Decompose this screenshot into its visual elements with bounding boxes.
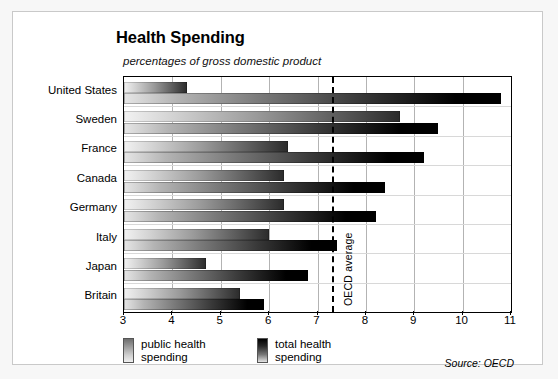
bar-public xyxy=(124,141,288,152)
legend-swatch-total-icon xyxy=(257,338,268,363)
chart-card: Health Spending percentages of gross dom… xyxy=(12,11,543,365)
bar-total xyxy=(124,211,376,222)
axis-tick-label: 7 xyxy=(313,314,319,326)
bar-total xyxy=(124,93,501,104)
legend-swatch-public-icon xyxy=(123,338,134,363)
plot-area: OECD average xyxy=(123,76,512,313)
chart-page: Health Spending percentages of gross dom… xyxy=(0,0,558,379)
row-separator xyxy=(124,283,511,284)
bar-public xyxy=(124,229,269,240)
chart-title: Health Spending xyxy=(116,28,245,47)
bar-public xyxy=(124,111,400,122)
axis-tick-label: 8 xyxy=(362,314,368,326)
bar-public xyxy=(124,170,284,181)
category-label: France xyxy=(81,142,117,154)
axis-tick-label: 3 xyxy=(120,314,126,326)
oecd-average-line xyxy=(332,77,334,312)
bar-total xyxy=(124,182,385,193)
axis-tick-label: 5 xyxy=(217,314,223,326)
bar-public xyxy=(124,288,240,299)
category-label: Germany xyxy=(70,201,117,213)
row-separator xyxy=(124,253,511,254)
row-separator xyxy=(124,165,511,166)
row-separator xyxy=(124,106,511,107)
axis-tick-label: 11 xyxy=(504,314,516,326)
category-label: Britain xyxy=(84,289,117,301)
oecd-average-label: OECD average xyxy=(342,232,354,306)
row-separator xyxy=(124,136,511,137)
axis-tick-label: 9 xyxy=(410,314,416,326)
legend-label-line2: spending xyxy=(141,351,206,364)
bar-public xyxy=(124,82,187,93)
plot-inner: OECD average xyxy=(124,77,511,312)
row-separator xyxy=(124,195,511,196)
bar-public xyxy=(124,199,284,210)
bar-total xyxy=(124,123,438,134)
category-label: Japan xyxy=(86,260,117,272)
chart-subtitle: percentages of gross domestic product xyxy=(123,55,321,67)
legend-label: public healthspending xyxy=(141,338,206,364)
category-label: Italy xyxy=(96,231,117,243)
axis-tick-label: 4 xyxy=(168,314,174,326)
bar-total xyxy=(124,152,424,163)
legend-label-line1: total health xyxy=(275,338,331,351)
legend-label: total healthspending xyxy=(275,338,331,364)
bar-public xyxy=(124,258,206,269)
legend-item-public: public healthspending xyxy=(123,338,206,364)
axis-tick-label: 6 xyxy=(265,314,271,326)
legend-label-line1: public health xyxy=(141,338,206,351)
category-label: Canada xyxy=(77,172,117,184)
category-axis-labels: United StatesSwedenFranceCanadaGermanyIt… xyxy=(13,12,117,379)
axis-tick-label: 10 xyxy=(455,314,468,326)
category-label: Sweden xyxy=(75,113,117,125)
legend-item-total: total healthspending xyxy=(257,338,331,364)
legend-label-line2: spending xyxy=(275,351,331,364)
category-label: United States xyxy=(48,84,117,96)
row-separator xyxy=(124,224,511,225)
bar-total xyxy=(124,240,337,251)
bar-total xyxy=(124,270,308,281)
bar-total xyxy=(124,299,264,310)
source-note: Source: OECD xyxy=(445,357,514,369)
